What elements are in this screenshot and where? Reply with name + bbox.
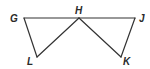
- label-l: L: [27, 56, 33, 67]
- geometry-diagram: G H J L K: [0, 0, 150, 69]
- segment-gl: [24, 18, 37, 57]
- label-g: G: [10, 13, 18, 24]
- label-k: K: [123, 56, 131, 67]
- label-h: H: [75, 5, 83, 16]
- label-j: J: [139, 13, 145, 24]
- segment-kj: [121, 18, 135, 57]
- segment-lh: [37, 18, 79, 57]
- segment-hk: [79, 18, 121, 57]
